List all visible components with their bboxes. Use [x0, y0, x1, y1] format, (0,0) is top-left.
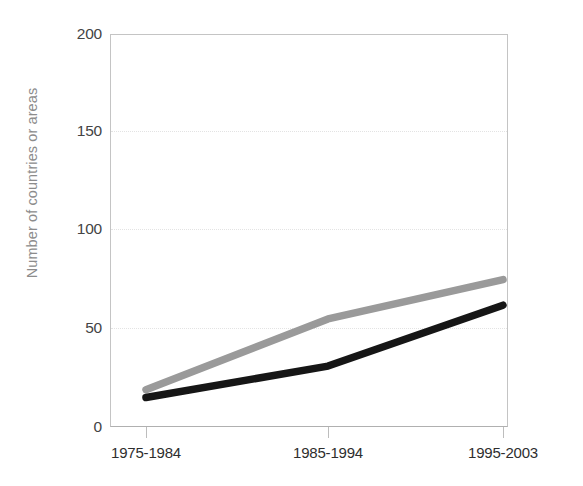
- plot-area: [110, 34, 508, 427]
- gridline-50: [111, 328, 507, 329]
- x-tick-mark-1: [146, 427, 147, 438]
- gridline-150: [111, 131, 507, 132]
- y-axis-tick-labels: 200 150 100 50 0: [38, 0, 102, 486]
- y-tick-label-150: 150: [42, 123, 102, 139]
- y-tick-label-50: 50: [42, 320, 102, 336]
- chart-figure: Number of countries or areas 200 150 100…: [0, 0, 583, 486]
- x-tick-mark-2: [328, 427, 329, 438]
- y-tick-label-100: 100: [42, 221, 102, 237]
- x-tick-label-1995-2003: 1995-2003: [423, 444, 583, 461]
- x-tick-label-1975-1984: 1975-1984: [66, 444, 226, 461]
- y-tick-label-200: 200: [42, 26, 102, 42]
- gridline-100: [111, 229, 507, 230]
- x-tick-mark-3: [503, 427, 504, 438]
- x-tick-label-1985-1994: 1985-1994: [248, 444, 408, 461]
- y-tick-label-0: 0: [42, 419, 102, 435]
